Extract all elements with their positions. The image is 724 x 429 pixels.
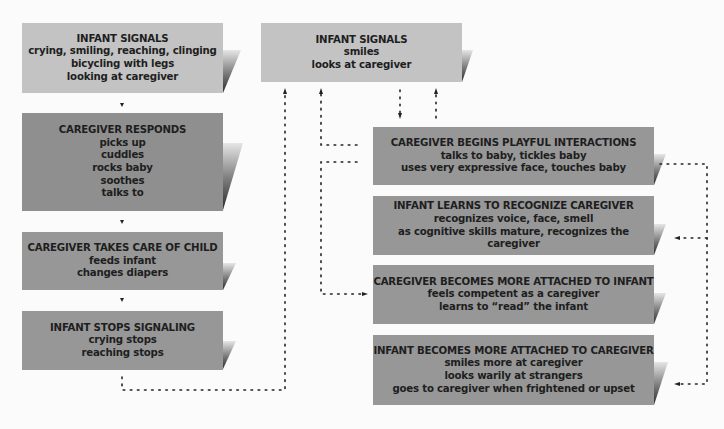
connectors-layer xyxy=(0,0,724,429)
box-tab xyxy=(223,50,241,93)
box-tab xyxy=(462,50,473,82)
box-tab xyxy=(223,263,236,290)
arrowhead-up xyxy=(283,88,287,94)
box-tab xyxy=(654,293,666,324)
arrowhead-left xyxy=(674,236,680,240)
box-tab xyxy=(223,341,236,369)
box-tab xyxy=(223,143,243,210)
arrow-down xyxy=(120,220,124,224)
arrow-down xyxy=(120,298,124,302)
arrowhead-left xyxy=(674,382,680,386)
arrowhead-up xyxy=(319,88,323,94)
arrowhead-up xyxy=(434,88,438,94)
connector-stops-to-signals2 xyxy=(122,94,285,390)
arrowhead-down xyxy=(398,113,402,119)
box-tab xyxy=(654,154,666,185)
box-tab xyxy=(654,224,666,255)
arrowhead-right xyxy=(362,292,368,296)
connector-playful-to-attached xyxy=(321,162,362,294)
connector-playful-to-signals2 xyxy=(321,94,357,145)
connector-right-loop xyxy=(660,164,707,384)
arrow-down xyxy=(120,103,124,107)
box-tab xyxy=(654,362,668,405)
